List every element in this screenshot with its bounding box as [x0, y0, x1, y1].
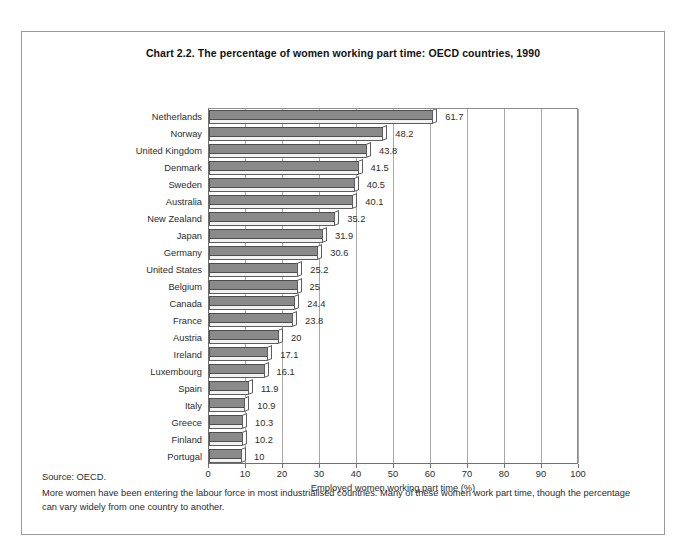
category-label: Japan [177, 231, 202, 241]
x-tick [541, 464, 542, 468]
source-note: Source: OECD. [42, 470, 642, 484]
x-tick [467, 464, 468, 468]
category-label: Netherlands [152, 112, 202, 122]
category-label: Germany [164, 248, 202, 258]
x-tick [356, 464, 357, 468]
category-label: Canada [169, 299, 202, 309]
bar-face [209, 161, 359, 171]
bar-end-cap [334, 210, 339, 226]
bar [209, 330, 283, 345]
bar [209, 178, 359, 193]
bar [209, 381, 253, 396]
bar-value-label: 31.9 [335, 231, 353, 241]
bar-value-label: 10.3 [255, 418, 273, 428]
bar-front-edge [209, 425, 243, 429]
bar-value-label: 25 [310, 282, 320, 292]
bar-front-edge [209, 323, 293, 327]
bar-front-edge [209, 306, 295, 310]
category-label: Luxembourg [150, 367, 202, 377]
plot-area: Netherlands61.7Norway48.2United Kingdom4… [208, 108, 578, 464]
bar [209, 263, 302, 278]
bar-value-label: 16.1 [277, 367, 295, 377]
bar-face [209, 381, 249, 391]
bar-end-cap [248, 379, 253, 395]
bar-end-cap [354, 176, 359, 192]
chart-row: Italy10.9 [208, 397, 577, 414]
bar-face [209, 398, 245, 408]
bar-front-edge [209, 408, 245, 412]
bar-value-label: 41.5 [371, 163, 389, 173]
bar [209, 212, 339, 227]
bar-front-edge [209, 273, 298, 277]
bar-value-label: 23.8 [305, 316, 323, 326]
chart-row: Finland10.2 [208, 431, 577, 448]
bar-face [209, 263, 298, 273]
chart-page-frame: Chart 2.2. The percentage of women worki… [21, 31, 665, 535]
bar [209, 144, 371, 159]
chart-row: Ireland17.1 [208, 346, 577, 363]
category-label: France [173, 316, 202, 326]
chart-row: Spain11.9 [208, 380, 577, 397]
bar-front-edge [209, 256, 318, 260]
bar [209, 313, 297, 328]
chart-row: Germany30.6 [208, 245, 577, 262]
chart-row: Netherlands61.7 [208, 109, 577, 126]
bar-face [209, 364, 265, 374]
bar-face [209, 280, 298, 290]
bar [209, 246, 322, 261]
bar-front-edge [209, 205, 353, 209]
bar [209, 127, 387, 142]
category-label: Portugal [167, 452, 202, 462]
bar-end-cap [317, 244, 322, 260]
chart-row: United Kingdom43.8 [208, 143, 577, 160]
bar-end-cap [358, 159, 363, 175]
bar-end-cap [267, 345, 272, 361]
bar-front-edge [209, 188, 355, 192]
bar-face [209, 229, 323, 239]
caption-note: More women have been entering the labour… [42, 486, 642, 514]
bar-end-cap [292, 311, 297, 327]
x-tick [319, 464, 320, 468]
category-label: Ireland [174, 350, 202, 360]
chart-row: Portugal10 [208, 448, 577, 465]
bar-face [209, 432, 243, 442]
bar-end-cap [264, 362, 269, 378]
bar-value-label: 43.8 [379, 146, 397, 156]
chart-row: New Zealand35.2 [208, 211, 577, 228]
chart-row: France23.8 [208, 312, 577, 329]
bar-value-label: 17.1 [280, 350, 298, 360]
bar-value-label: 35.2 [347, 214, 365, 224]
bar [209, 415, 247, 430]
bar-face [209, 195, 353, 205]
bar-front-edge [209, 222, 335, 226]
bar [209, 398, 249, 413]
bar-end-cap [242, 413, 247, 429]
bar-value-label: 20 [291, 333, 301, 343]
bar-end-cap [241, 447, 246, 463]
bar-front-edge [209, 137, 383, 141]
chart-row: Luxembourg16.1 [208, 363, 577, 380]
category-label: New Zealand [147, 214, 202, 224]
bar [209, 280, 302, 295]
bar-front-edge [209, 120, 433, 124]
x-tick [578, 464, 579, 468]
bar-value-label: 10 [254, 452, 264, 462]
x-tick [245, 464, 246, 468]
bar-face [209, 347, 268, 357]
category-label: Sweden [168, 180, 202, 190]
x-tick [208, 464, 209, 468]
chart-row: Greece10.3 [208, 414, 577, 431]
chart-row: Austria20 [208, 329, 577, 346]
bar-face [209, 144, 367, 154]
chart-title: Chart 2.2. The percentage of women worki… [22, 47, 664, 59]
bar-end-cap [432, 108, 437, 124]
category-label: Australia [166, 197, 202, 207]
bar-front-edge [209, 340, 279, 344]
bar-front-edge [209, 154, 367, 158]
bar-value-label: 10.2 [255, 435, 273, 445]
bar-front-edge [209, 442, 243, 446]
bar-value-label: 48.2 [395, 129, 413, 139]
bar-face [209, 110, 433, 120]
x-tick [282, 464, 283, 468]
bar-end-cap [242, 430, 247, 446]
